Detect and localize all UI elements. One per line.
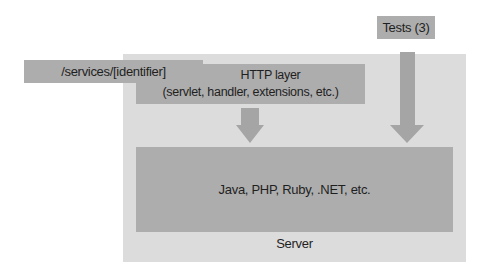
services-endpoint-box: /services/[identifier] [24, 60, 203, 83]
tests-box: Tests (3) [377, 16, 435, 39]
tests-label: Tests (3) [382, 20, 429, 35]
arrow-down-icon [390, 52, 424, 144]
http-layer-subtitle: (servlet, handler, extensions, etc.) [162, 84, 338, 101]
runtime-languages-label: Java, PHP, Ruby, .NET, etc. [219, 182, 371, 197]
services-endpoint-label: /services/[identifier] [61, 64, 166, 79]
arrow-down-icon [236, 108, 264, 144]
runtime-languages-box: Java, PHP, Ruby, .NET, etc. [136, 147, 453, 232]
server-label: Server [123, 236, 466, 256]
http-layer-title: HTTP layer [201, 67, 301, 84]
